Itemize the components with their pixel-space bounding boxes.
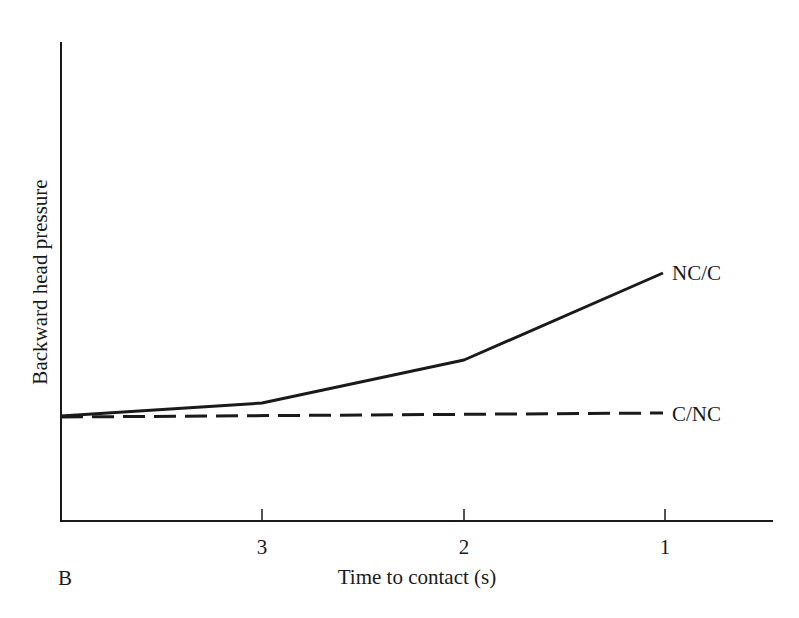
series-label-c-nc: C/NC	[672, 402, 721, 426]
panel-label: B	[58, 566, 72, 590]
chart: 3 2 1 NC/C C/NC Time to contact (s) Back…	[0, 0, 799, 618]
series-line-nc-c	[61, 273, 663, 416]
y-axis-label: Backward head pressure	[28, 179, 52, 384]
x-ticks	[262, 509, 665, 521]
series-label-nc-c: NC/C	[672, 261, 721, 285]
x-axis-label: Time to contact (s)	[338, 565, 496, 589]
x-tick-label: 3	[257, 535, 268, 559]
series-line-c-nc	[61, 413, 663, 417]
x-tick-label: 1	[660, 535, 671, 559]
x-tick-label: 2	[459, 535, 470, 559]
